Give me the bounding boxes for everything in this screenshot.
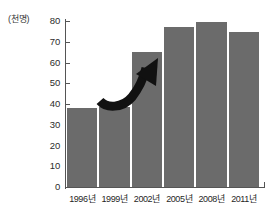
y-axis-tick-label: 0 bbox=[0, 181, 60, 192]
plot-area bbox=[66, 21, 260, 187]
y-axis-tick-label: 40 bbox=[0, 98, 60, 109]
y-axis-tick-mark bbox=[65, 187, 70, 188]
x-axis-tick-label: 2011년 bbox=[228, 192, 260, 205]
y-axis-tick-label: 50 bbox=[0, 77, 60, 88]
x-axis-tick-label: 2005년 bbox=[163, 192, 195, 205]
x-axis-tick-label: 2008년 bbox=[195, 192, 227, 205]
y-axis-tick-label: 30 bbox=[0, 119, 60, 130]
y-axis-tick-label: 80 bbox=[0, 15, 60, 26]
x-axis-tick-label: 1996년 bbox=[66, 192, 98, 205]
y-axis-tick-label: 60 bbox=[0, 57, 60, 68]
bar-chart: (천명) 80706050403020100 1996년1999년2002년20… bbox=[0, 0, 272, 216]
bar bbox=[195, 22, 227, 187]
x-axis-line bbox=[65, 187, 265, 188]
bar bbox=[228, 32, 260, 187]
bar bbox=[98, 107, 130, 187]
x-axis-tick-label: 2002년 bbox=[131, 192, 163, 205]
bar bbox=[131, 52, 163, 187]
y-axis-tick-label: 10 bbox=[0, 160, 60, 171]
x-axis-tick-label: 1999년 bbox=[98, 192, 130, 205]
x-axis-end-tick bbox=[264, 182, 265, 188]
y-axis-tick-label: 70 bbox=[0, 36, 60, 47]
bar bbox=[163, 27, 195, 187]
bar bbox=[66, 108, 98, 187]
y-axis-tick-label: 20 bbox=[0, 140, 60, 151]
